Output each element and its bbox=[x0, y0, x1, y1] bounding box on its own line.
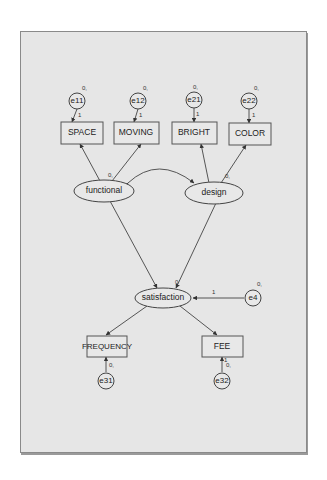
observed-label: FREQUENCY bbox=[82, 342, 133, 351]
error-label: e31 bbox=[99, 376, 113, 385]
latent-label: functional bbox=[86, 185, 122, 195]
error-weight: 1 bbox=[139, 112, 143, 118]
observed-MOVING[interactable]: MOVING bbox=[114, 122, 159, 144]
latent-param: 0, bbox=[108, 172, 113, 178]
observed-label: SPACE bbox=[68, 127, 97, 137]
error-label: e11 bbox=[71, 96, 84, 105]
observed-COLOR[interactable]: COLOR bbox=[229, 123, 271, 145]
sem-diagram: SPACE MOVING BRIGHT COLOR FREQUENCY FEE … bbox=[0, 0, 327, 480]
error-e12[interactable]: e12 0, 1 bbox=[130, 85, 148, 118]
error-param: 0, bbox=[82, 85, 87, 91]
observed-FEE[interactable]: FEE bbox=[202, 336, 243, 357]
measurement-paths bbox=[80, 144, 246, 183]
observed-SPACE[interactable]: SPACE bbox=[61, 122, 103, 144]
latent-satisfaction[interactable]: satisfaction 0 bbox=[135, 279, 191, 308]
error-weight: 1 bbox=[196, 111, 200, 117]
latent-design[interactable]: design 0, bbox=[185, 173, 243, 204]
error-e4[interactable]: e4 0, 1 bbox=[212, 281, 262, 306]
observed-label: MOVING bbox=[119, 127, 153, 137]
error-param: 0, bbox=[193, 84, 198, 90]
error-paths-top bbox=[72, 108, 249, 123]
error-label: e12 bbox=[131, 96, 145, 105]
error-e22[interactable]: e22 0, 1 bbox=[241, 85, 259, 118]
error-weight: 1 bbox=[252, 112, 256, 118]
error-e11[interactable]: e11 0, 1 bbox=[69, 85, 87, 118]
latent-functional[interactable]: functional 0, bbox=[74, 172, 134, 202]
error-label: e22 bbox=[242, 96, 256, 105]
error-label: e4 bbox=[249, 293, 258, 302]
latent-param: 0, bbox=[225, 173, 230, 179]
error-param: 0, bbox=[254, 85, 259, 91]
error-param: 0, bbox=[257, 281, 262, 287]
observed-label: COLOR bbox=[235, 128, 265, 138]
error-label: e21 bbox=[187, 95, 201, 104]
observed-BRIGHT[interactable]: BRIGHT bbox=[172, 122, 217, 144]
error-label: e32 bbox=[215, 376, 229, 385]
error-param: 0, bbox=[109, 362, 114, 368]
error-weight: 1 bbox=[212, 289, 216, 295]
covariance-functional-design bbox=[128, 169, 194, 183]
observed-label: FEE bbox=[214, 341, 231, 351]
latent-label: design bbox=[201, 187, 226, 197]
observed-label: BRIGHT bbox=[178, 127, 210, 137]
error-e32[interactable]: e32 0, 1 bbox=[214, 357, 231, 389]
latent-label: satisfaction bbox=[142, 292, 185, 302]
error-weight: 1 bbox=[78, 112, 82, 118]
error-param: 0, bbox=[143, 85, 148, 91]
observed-FREQUENCY[interactable]: FREQUENCY bbox=[82, 336, 133, 357]
